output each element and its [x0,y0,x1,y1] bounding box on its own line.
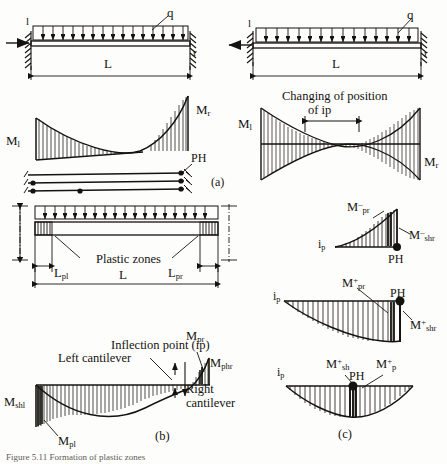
label-Mpr-neg-c1: M–pr [347,200,369,214]
mpl-leader-b [44,420,58,436]
panel-a-beam [6,16,196,80]
label-Mpl-b: Mpl [58,435,76,449]
label-right-cantilever-1: Right [186,383,214,396]
label-Lpl: Lpl [54,267,68,281]
label-load-q-a: q [167,6,174,19]
label-Mshl-b: Mshl [4,396,25,410]
label-Msh-pos-c3: M+sh [326,357,349,371]
label-support-l-a: l [26,16,29,27]
ph-leader-a [183,164,192,172]
lpl-dimension [35,235,52,272]
note-ip-line2: of ip [308,104,331,117]
figure-caption: Figure 5.11 Formation of plastic zones [6,452,145,462]
plastic-hinge-dot-c1 [393,243,401,251]
label-Ml-ar: Ml [238,117,252,132]
udl-box-a [33,26,188,40]
label-support-l-ar: l [248,18,251,29]
udl-arrows-b [45,206,205,219]
label-PH-c3: PH [349,370,364,382]
plastic-zone-right [200,222,218,235]
label-Mpr-pos-c2: M+pr [342,276,365,290]
panel-a-mechanism [24,164,192,194]
label-load-q-ar: q [407,8,414,21]
label-ip-c1: ip [318,238,325,252]
udl-box-b [35,206,218,219]
label-span-L-b: L [119,268,127,281]
panel-a-right-beam [229,18,427,80]
moment-hatch-ar-upper [264,108,418,144]
label-Mr-a: Mr [196,103,211,118]
label-PH-a: PH [191,152,206,164]
note-ip-line1: Changing of position [282,90,388,103]
panel-c-diagram-1 [335,209,410,251]
panel-a-moment [36,96,188,160]
label-support-r-ar: r [424,48,428,59]
udl-arrows-a [43,26,183,40]
label-panel-c: (c) [338,428,352,441]
mpr-leader-b [197,352,204,372]
moment-hatch-a [39,97,186,160]
label-Mpr-b: Mpr [186,330,204,344]
left-fixed-support-ar [247,31,253,66]
moment-hatch-b-neg [38,385,185,427]
label-span-L-ar: L [332,57,340,70]
label-Mshr-pos-c2: M+shr [410,318,436,332]
label-Mr-ar: Mr [424,155,439,170]
udl-arrows-ar [266,28,409,42]
left-fixed-support-a [25,31,31,70]
q-leader-a [152,16,168,30]
label-panel-a: (a) [211,176,224,188]
label-ip-c3: ip [277,366,284,380]
label-PH-c2: PH [390,287,405,299]
label-Mp-pos-c3: M+p [376,357,396,371]
label-support-r-a: r [193,47,197,58]
figure-plastic-zones [0,0,447,464]
ip-range-dimension [305,116,359,132]
udl-box-ar [256,28,418,42]
label-PH-c1: PH [388,253,403,265]
label-left-cantilever: Left cantilever [58,352,131,365]
label-plastic-zones: Plastic zones [96,253,161,266]
plastic-zone-left [35,222,52,235]
lpr-dimension [200,235,218,272]
label-Lpr: Lpr [168,267,183,281]
label-Ml-a: Ml [6,134,20,149]
label-ip-c2: ip [273,290,280,304]
beam-a [31,41,190,46]
panel-a-right-moment [261,108,420,180]
beam-ar [253,43,421,48]
moment-hatch-ar-lower [264,144,418,180]
label-Mphr-b: Mphr [210,357,232,371]
ip-leader-b [150,358,172,380]
label-Mshr-neg-c1: M–shr [409,228,435,242]
label-span-L-a: L [104,57,112,70]
label-panel-b: (b) [155,430,170,443]
label-right-cantilever-2: cantilever [186,397,235,410]
beam-b [35,222,218,235]
